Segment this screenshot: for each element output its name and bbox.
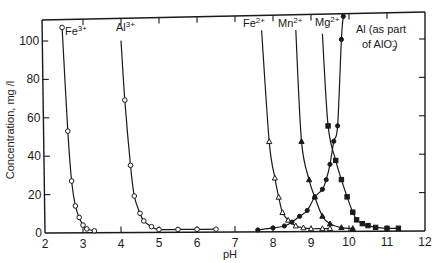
- y-tick-label: 40: [28, 149, 42, 163]
- data-point-marker: [272, 175, 277, 180]
- data-point-marker: [373, 225, 377, 229]
- top-border: [42, 12, 425, 20]
- y-tick-label: 0: [35, 226, 42, 240]
- data-markers: [60, 14, 401, 233]
- y-axis-title: Concentration, mg /l: [4, 81, 16, 179]
- data-point-marker: [280, 210, 285, 215]
- data-point-marker: [157, 227, 162, 232]
- data-point-marker: [60, 25, 65, 30]
- data-point-marker: [328, 162, 332, 166]
- data-point-marker: [339, 225, 344, 230]
- x-tick-label: 5: [156, 236, 163, 250]
- data-point-marker: [123, 98, 128, 103]
- data-point-marker: [339, 37, 343, 41]
- x-tick-label: 11: [381, 235, 394, 249]
- data-point-marker: [396, 226, 400, 230]
- data-point-marker: [305, 208, 309, 212]
- data-point-marker: [85, 227, 90, 232]
- label-alo2-line2: of AlO2-): [362, 36, 398, 53]
- data-point-marker: [66, 129, 71, 134]
- data-point-marker: [350, 226, 355, 231]
- data-point-marker: [320, 226, 325, 231]
- x-tick-label: 3: [80, 237, 87, 251]
- data-point-marker: [339, 177, 343, 181]
- data-point-marker: [334, 158, 338, 162]
- data-point-marker: [385, 226, 389, 230]
- x-tick-label: 2: [42, 237, 49, 251]
- data-point-marker: [73, 204, 78, 209]
- x-tick-label: 6: [194, 236, 201, 250]
- data-point-marker: [81, 223, 86, 228]
- data-point-marker: [92, 229, 97, 234]
- label-mg2: Mg2+: [315, 15, 340, 28]
- precipitation-chart: 23456789101112020406080100 pH Concentrat…: [0, 0, 435, 263]
- data-point-marker: [324, 178, 328, 182]
- x-tick-label: 4: [118, 237, 125, 251]
- data-point-marker: [214, 227, 219, 232]
- data-point-marker: [176, 227, 181, 232]
- y-tick-label: 60: [27, 111, 41, 125]
- data-point-marker: [298, 214, 302, 218]
- data-point-marker: [336, 124, 340, 128]
- y-tick-label: 100: [19, 34, 39, 48]
- x-axis-title: pH: [223, 248, 237, 260]
- data-point-marker: [354, 218, 358, 222]
- data-point-marker: [351, 210, 355, 214]
- data-point-marker: [256, 228, 260, 232]
- data-point-marker: [195, 227, 200, 232]
- x-tick-label: 8: [270, 236, 277, 250]
- data-point-marker: [149, 224, 154, 229]
- data-point-marker: [307, 177, 312, 182]
- data-point-marker: [132, 194, 137, 199]
- y-axis-left: [42, 20, 45, 233]
- data-point-marker: [345, 195, 349, 199]
- curve-fe2-: [262, 30, 330, 229]
- data-point-marker: [290, 220, 294, 224]
- data-point-marker: [276, 194, 281, 199]
- data-point-marker: [332, 139, 336, 143]
- data-point-marker: [320, 187, 324, 191]
- label-al3: Al3+: [116, 20, 135, 33]
- x-tick-label: 12: [418, 235, 432, 249]
- data-point-marker: [308, 226, 313, 231]
- data-point-marker: [301, 225, 306, 230]
- data-point-marker: [360, 221, 364, 225]
- y-tick-label: 20: [28, 188, 42, 202]
- curve-al3-: [121, 41, 216, 230]
- data-point-marker: [142, 219, 147, 224]
- label-fe2: Fe2+: [243, 16, 265, 29]
- data-point-marker: [326, 124, 330, 128]
- data-point-marker: [341, 14, 345, 18]
- label-fe3: Fe3+: [65, 24, 87, 37]
- data-point-marker: [271, 226, 275, 230]
- curve-mg2-: [322, 34, 398, 229]
- x-tick-label: 10: [342, 235, 356, 249]
- x-tick-label: 9: [308, 236, 315, 250]
- data-point-marker: [77, 215, 82, 220]
- label-mn2: Mn2+: [278, 16, 303, 29]
- data-point-marker: [128, 163, 133, 168]
- data-point-marker: [138, 211, 143, 216]
- data-point-marker: [282, 224, 286, 228]
- data-point-marker: [69, 179, 74, 184]
- data-point-marker: [299, 139, 304, 144]
- data-point-marker: [327, 226, 332, 231]
- data-point-marker: [327, 221, 332, 226]
- data-point-marker: [313, 195, 317, 199]
- data-point-marker: [320, 213, 325, 218]
- data-point-marker: [366, 223, 370, 227]
- label-alo2-line1: Al (as part: [356, 23, 406, 35]
- data-point-marker: [267, 139, 272, 144]
- data-point-marker: [293, 223, 298, 228]
- y-tick-label: 80: [26, 72, 40, 86]
